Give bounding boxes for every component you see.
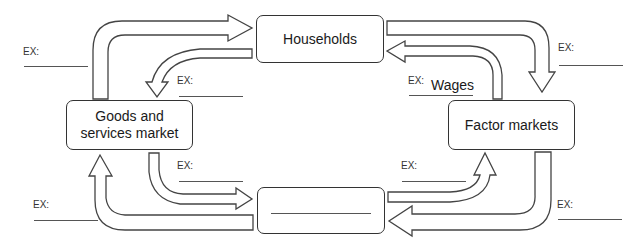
wages-answer: Wages (431, 77, 474, 93)
answer-line-bottom-right-inner[interactable] (402, 181, 466, 182)
blank-firms-box[interactable] (257, 187, 385, 234)
ex-label-bottom-right-inner: EX: (401, 160, 417, 171)
answer-line-bottom-right-outer[interactable] (558, 219, 622, 220)
goods-services-market-box: Goods and services market (66, 100, 193, 150)
factor-markets-label: Factor markets (465, 117, 558, 134)
ex-label-top-left-outer: EX: (23, 46, 39, 57)
ex-label-top-right-inner: EX: (408, 75, 424, 86)
answer-line-top-left-outer[interactable] (24, 66, 88, 67)
goods-services-label: Goods and services market (80, 108, 178, 142)
answer-line-bottom-left-outer[interactable] (34, 220, 98, 221)
answer-line-bottom-left-inner[interactable] (179, 181, 243, 182)
blank-firms-answer-line[interactable] (271, 213, 371, 214)
households-box: Households (256, 15, 384, 63)
households-label: Households (283, 31, 357, 48)
arrow-households-to-goods (146, 49, 252, 97)
ex-label-top-left-inner: EX: (177, 75, 193, 86)
ex-label-bottom-left-inner: EX: (177, 160, 193, 171)
ex-label-top-right-outer: EX: (558, 42, 574, 53)
answer-line-top-right-inner[interactable] (409, 95, 473, 96)
factor-markets-box: Factor markets (448, 100, 575, 150)
ex-label-bottom-right-outer: EX: (557, 199, 573, 210)
answer-line-top-right-outer[interactable] (559, 65, 623, 66)
answer-line-top-left-inner[interactable] (179, 96, 243, 97)
ex-label-bottom-left-outer: EX: (33, 199, 49, 210)
